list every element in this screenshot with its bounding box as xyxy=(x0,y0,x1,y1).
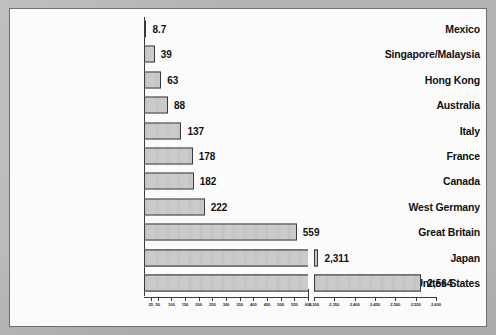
axis-tick-label: 200 xyxy=(195,302,202,307)
bar-row: Singapore/Malaysia39 xyxy=(10,42,486,66)
bar-row: Unites States2,564 xyxy=(10,271,486,295)
axis-tick xyxy=(334,297,335,301)
axis-tick-label: 100 xyxy=(168,302,175,307)
axis-tick-label: 150 xyxy=(182,302,189,307)
bar-upper-segment xyxy=(314,275,421,292)
axis-tick-label: 2,400 xyxy=(350,302,360,307)
axis-tick-label: 2,350 xyxy=(329,302,339,307)
axis-tick xyxy=(212,297,213,301)
value-label: 39 xyxy=(161,49,172,60)
axis-tick xyxy=(416,297,417,301)
axis-tick xyxy=(281,297,282,301)
value-label: 559 xyxy=(303,227,320,238)
axis-tick xyxy=(240,297,241,301)
bar-upper-segment xyxy=(314,249,318,266)
axis-tick xyxy=(436,297,437,301)
axis-tick-label: 300 xyxy=(223,302,230,307)
category-label: France xyxy=(358,150,486,162)
x-axis: 25501001502002503003504004505005506002,3… xyxy=(144,297,482,325)
bar-row: Canada182 xyxy=(10,169,486,193)
bar xyxy=(144,97,168,114)
value-label: 88 xyxy=(174,100,185,111)
value-label: 2,564 xyxy=(427,278,452,289)
value-label: 8.7 xyxy=(152,24,166,35)
bar xyxy=(144,148,193,165)
axis-tick-label: 25 xyxy=(149,302,153,307)
axis-tick xyxy=(253,297,254,301)
screenshot-root: Mexico8.7Singapore/Malaysia39Hong Kong63… xyxy=(0,0,496,335)
axis-tick xyxy=(151,297,152,301)
bar xyxy=(144,224,297,241)
bar-row: Hong Kong63 xyxy=(10,68,486,92)
value-label: 2,311 xyxy=(324,252,348,263)
axis-tick xyxy=(314,297,315,301)
axis-tick xyxy=(395,297,396,301)
bar-row: West Germany222 xyxy=(10,195,486,219)
bar-row: France178 xyxy=(10,144,486,168)
bar-row: Great Britain559 xyxy=(10,220,486,244)
chart-panel: Mexico8.7Singapore/Malaysia39Hong Kong63… xyxy=(9,8,487,327)
value-label: 63 xyxy=(167,74,178,85)
bar xyxy=(144,21,146,38)
axis-tick-label: 2,300 xyxy=(309,302,319,307)
category-label: Hong Kong xyxy=(358,74,486,86)
bar-row: Japan2,311 xyxy=(10,246,486,270)
axis-tick xyxy=(158,297,159,301)
bar xyxy=(144,198,205,215)
bar xyxy=(144,173,194,190)
axis-tick-label: 50 xyxy=(155,302,159,307)
bar-row: Australia88 xyxy=(10,93,486,117)
axis-tick xyxy=(375,297,376,301)
axis-tick-label: 2,450 xyxy=(370,302,380,307)
bar xyxy=(144,122,181,139)
value-label: 178 xyxy=(199,151,216,162)
axis-tick-label: 550 xyxy=(291,302,298,307)
axis-tick xyxy=(226,297,227,301)
axis-tick-label: 2,500 xyxy=(390,302,400,307)
category-label: Great Britain xyxy=(358,226,486,238)
bar xyxy=(144,249,318,266)
axis-tick-label: 2,600 xyxy=(431,302,441,307)
axis-tick xyxy=(294,297,295,301)
axis-tick xyxy=(355,297,356,301)
bar xyxy=(144,46,155,63)
bar-row: Mexico8.7 xyxy=(10,17,486,41)
axis-tick-label: 2,550 xyxy=(411,302,421,307)
axis-tick xyxy=(308,297,309,301)
category-label: Canada xyxy=(358,175,486,187)
category-label: Italy xyxy=(358,125,486,137)
axis-tick xyxy=(199,297,200,301)
axis-tick-label: 500 xyxy=(277,302,284,307)
bar xyxy=(144,71,161,88)
value-label: 182 xyxy=(200,176,217,187)
category-label: Mexico xyxy=(358,23,486,35)
value-label: 137 xyxy=(187,125,204,136)
axis-tick-label: 400 xyxy=(250,302,257,307)
axis-tick-label: 350 xyxy=(236,302,243,307)
bar-chart: Mexico8.7Singapore/Malaysia39Hong Kong63… xyxy=(10,9,486,326)
axis-tick-label: 450 xyxy=(264,302,271,307)
axis-tick xyxy=(185,297,186,301)
category-label: Singapore/Malaysia xyxy=(358,48,486,60)
category-label: Japan xyxy=(358,252,486,264)
bar-row: Italy137 xyxy=(10,119,486,143)
axis-tick xyxy=(171,297,172,301)
axis-tick-label: 250 xyxy=(209,302,216,307)
axis-break-edge xyxy=(308,289,309,297)
category-label: West Germany xyxy=(358,201,486,213)
axis-tick xyxy=(267,297,268,301)
value-label: 222 xyxy=(211,201,228,212)
category-label: Australia xyxy=(358,99,486,111)
